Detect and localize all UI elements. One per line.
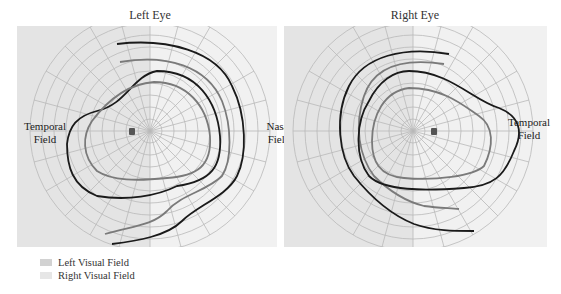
left-temporal-field-label: Temporal Field (20, 120, 70, 146)
right-temporal-field-label: Temporal Field (503, 116, 555, 142)
blind-spot (129, 128, 135, 135)
legend-swatch-right (40, 272, 52, 279)
blind-spot (431, 128, 437, 135)
legend-label-left: Left Visual Field (58, 257, 129, 268)
legend-label-right: Right Visual Field (58, 270, 135, 281)
right-eye-title: Right Eye (365, 8, 465, 23)
legend-swatch-left (40, 259, 52, 266)
legend-item-right-visual-field: Right Visual Field (40, 269, 135, 282)
legend: Left Visual Field Right Visual Field (40, 256, 135, 282)
left-eye-title: Left Eye (100, 8, 200, 23)
legend-item-left-visual-field: Left Visual Field (40, 256, 135, 269)
